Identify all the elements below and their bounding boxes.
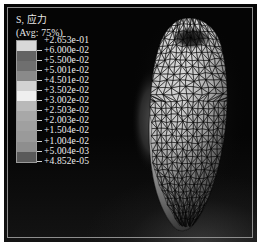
legend-value-labels: +2.653e-01+6.000e-02+5.500e-02+5.001e-02… <box>44 40 126 161</box>
color-bar-swatch <box>17 61 36 71</box>
color-bar-swatch <box>17 142 36 152</box>
tooth-root-mesh <box>122 12 254 240</box>
color-bar-tick <box>37 60 42 61</box>
color-bar-tick <box>37 130 42 131</box>
color-bar-swatch <box>17 111 36 121</box>
color-bar <box>16 40 37 163</box>
color-bar-tick <box>37 110 42 111</box>
color-bar-tick <box>37 161 42 162</box>
legend-value-label: +4.852e-05 <box>44 156 89 166</box>
color-bar-swatch <box>17 121 36 131</box>
contour-legend: S, 应力 (Avg: 75%) +2.653e-01+6.000e-02+5.… <box>14 15 126 163</box>
color-bar-swatch <box>17 41 36 51</box>
color-bar-swatch <box>17 101 36 111</box>
legend-title: S, 应力 <box>16 15 126 25</box>
color-bar-ticks <box>37 40 43 161</box>
color-bar-swatch <box>17 51 36 61</box>
legend-body: +2.653e-01+6.000e-02+5.500e-02+5.001e-02… <box>16 40 126 163</box>
color-bar-tick <box>37 80 42 81</box>
color-bar-swatch <box>17 152 36 162</box>
color-bar-tick <box>37 100 42 101</box>
color-bar-tick <box>37 90 42 91</box>
color-bar-tick <box>37 70 42 71</box>
color-bar-tick <box>37 120 42 121</box>
color-bar-tick <box>37 151 42 152</box>
render-scene: S, 应力 (Avg: 75%) +2.653e-01+6.000e-02+5.… <box>4 4 257 242</box>
color-bar-swatch <box>17 131 36 141</box>
color-bar-swatch <box>17 91 36 101</box>
figure-viewport: S, 应力 (Avg: 75%) +2.653e-01+6.000e-02+5.… <box>0 0 261 246</box>
color-bar-swatch <box>17 71 36 81</box>
color-bar-tick <box>37 50 42 51</box>
color-bar-tick <box>37 141 42 142</box>
model-viewport <box>122 12 254 240</box>
color-bar-swatch <box>17 81 36 91</box>
